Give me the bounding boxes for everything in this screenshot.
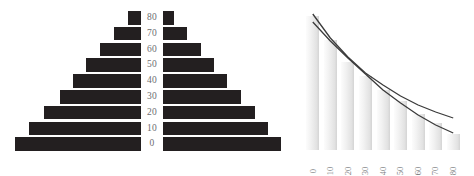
- decline-x-tick-label: 80: [447, 166, 460, 176]
- decline-x-tick-label: 60: [412, 166, 425, 176]
- pyramid-bar-right: [163, 11, 174, 25]
- pyramid-age-label: 60: [141, 43, 163, 57]
- pyramid-row: 30: [0, 90, 290, 104]
- pyramid-bar-right: [163, 74, 227, 88]
- pyramid-row: 50: [0, 58, 290, 72]
- pyramid-bar-left: [29, 122, 141, 136]
- population-pyramid-chart: 80706050403020100: [0, 0, 290, 176]
- pyramid-bar-right: [163, 106, 255, 120]
- decline-x-tick-label: 40: [377, 166, 390, 176]
- pyramid-age-label: 20: [141, 106, 163, 120]
- pyramid-bar-right: [163, 137, 281, 151]
- pyramid-row: 10: [0, 122, 290, 136]
- decline-x-tick-label: 0: [306, 166, 319, 176]
- pyramid-row: 70: [0, 27, 290, 41]
- decline-chart: 01020304050607080: [290, 0, 474, 176]
- decline-x-tick-label: 10: [324, 166, 337, 176]
- pyramid-bar-left: [60, 90, 141, 104]
- trend-line-upper: [313, 14, 453, 118]
- pyramid-bar-left: [44, 106, 141, 120]
- pyramid-row: 60: [0, 43, 290, 57]
- trend-line-lower: [313, 22, 453, 133]
- pyramid-bar-right: [163, 58, 214, 72]
- pyramid-row: 40: [0, 74, 290, 88]
- pyramid-bar-left: [86, 58, 141, 72]
- pyramid-age-label: 40: [141, 74, 163, 88]
- pyramid-age-label: 30: [141, 90, 163, 104]
- trend-lines-overlay: [304, 10, 462, 150]
- pyramid-row: 0: [0, 137, 290, 151]
- pyramid-bar-right: [163, 90, 241, 104]
- pyramid-bar-left: [128, 11, 141, 25]
- figure-root: 80706050403020100 01020304050607080: [0, 0, 474, 176]
- pyramid-age-label: 10: [141, 122, 163, 136]
- pyramid-row: 20: [0, 106, 290, 120]
- pyramid-bar-left: [114, 27, 141, 41]
- decline-x-axis-labels: 01020304050607080: [304, 150, 462, 176]
- pyramid-bar-left: [15, 137, 141, 151]
- pyramid-age-label: 50: [141, 58, 163, 72]
- pyramid-bar-left: [73, 74, 141, 88]
- pyramid-row: 80: [0, 11, 290, 25]
- decline-x-tick-label: 30: [359, 166, 372, 176]
- decline-plot-area: [304, 10, 462, 150]
- decline-x-tick-label: 50: [394, 166, 407, 176]
- pyramid-age-label: 70: [141, 27, 163, 41]
- decline-x-tick-label: 70: [429, 166, 442, 176]
- pyramid-bar-right: [163, 122, 268, 136]
- pyramid-age-label: 80: [141, 11, 163, 25]
- pyramid-bar-left: [100, 43, 141, 57]
- decline-x-tick-label: 20: [341, 166, 354, 176]
- pyramid-age-label: 0: [141, 137, 163, 151]
- pyramid-bar-right: [163, 43, 201, 57]
- pyramid-bar-right: [163, 27, 187, 41]
